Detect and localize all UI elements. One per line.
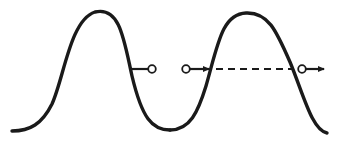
exit-arrow-marker [298, 65, 324, 73]
stub-circle-marker [131, 65, 156, 73]
open-circle-icon [298, 65, 306, 73]
open-circle-icon [148, 65, 156, 73]
diagram-canvas: Two bell-shaped pulses with threshold ma… [0, 0, 338, 145]
diagram-description: Two bell-shaped pulses with threshold ma… [0, 0, 21, 1]
pulse-curve-1 [12, 11, 170, 131]
pulse-diagram [0, 0, 338, 145]
open-circle-icon [182, 65, 190, 73]
entry-arrow-marker [182, 65, 209, 73]
